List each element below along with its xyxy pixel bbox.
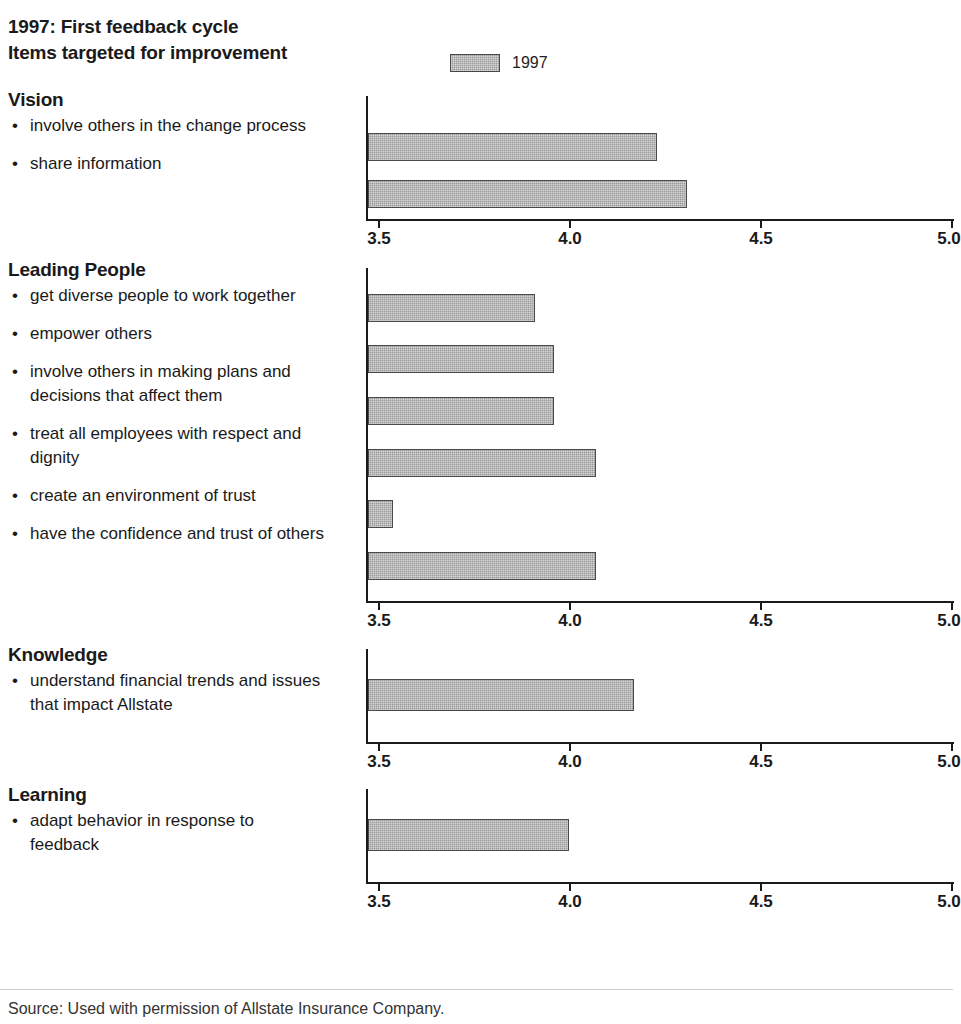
section-leading-people: Leading People • get diverse people to w… [0, 258, 953, 643]
list-item-label: involve others in making plans and decis… [30, 362, 291, 405]
list-item: • have the confidence and trust of other… [8, 522, 338, 546]
bullet-icon: • [12, 360, 18, 384]
plot-learning: 3.5 4.0 4.5 5.0 [366, 783, 953, 923]
x-tick-label-3-5: 3.5 [367, 229, 391, 249]
x-tick-label-3-5: 3.5 [367, 752, 391, 772]
x-axis-line [366, 882, 954, 884]
x-tick-3-5 [378, 882, 380, 891]
footer-divider [0, 989, 953, 990]
x-tick-label-4-0: 4.0 [558, 229, 582, 249]
list-item-label: share information [30, 154, 161, 173]
bar-get-diverse-people [368, 294, 535, 322]
plot-knowledge: 3.5 4.0 4.5 5.0 [366, 643, 953, 783]
x-tick-label-4-5: 4.5 [749, 611, 773, 631]
x-tick-label-5-0: 5.0 [937, 229, 961, 249]
bar-share-information [368, 180, 687, 208]
x-tick-label-5-0: 5.0 [937, 892, 961, 912]
x-axis-line [366, 742, 954, 744]
list-item: • treat all employees with respect and d… [8, 422, 338, 470]
x-tick-3-5 [378, 601, 380, 610]
x-tick-3-5 [378, 742, 380, 751]
group-title-knowledge: Knowledge [8, 643, 366, 667]
group-title-vision: Vision [8, 88, 366, 112]
x-tick-label-4-5: 4.5 [749, 892, 773, 912]
title-line-1: 1997: First feedback cycle [8, 14, 287, 40]
x-tick-4-0 [569, 219, 571, 228]
section-learning: Learning • adapt behavior in response to… [0, 783, 953, 923]
page-title: 1997: First feedback cycle Items targete… [8, 14, 287, 66]
bar-empower-others [368, 345, 554, 373]
bullet-icon: • [12, 322, 18, 346]
plot-vision: 3.5 4.0 4.5 5.0 [366, 88, 953, 258]
x-tick-3-5 [378, 219, 380, 228]
x-tick-label-5-0: 5.0 [937, 611, 961, 631]
list-item-label: understand financial trends and issues t… [30, 671, 320, 714]
x-tick-5-0 [951, 882, 953, 891]
bullet-icon: • [12, 422, 18, 446]
group-title-learning: Learning [8, 783, 366, 807]
bullet-icon: • [12, 809, 18, 833]
section-vision: Vision • involve others in the change pr… [0, 88, 953, 258]
x-tick-label-4-5: 4.5 [749, 752, 773, 772]
list-item: • get diverse people to work together [8, 284, 298, 308]
x-tick-4-5 [760, 601, 762, 610]
x-tick-4-0 [569, 882, 571, 891]
bar-involve-others-change [368, 133, 657, 161]
source-note: Source: Used with permission of Allstate… [8, 1000, 444, 1018]
labels-leading-people: Leading People • get diverse people to w… [0, 258, 366, 546]
x-axis-line [366, 219, 954, 221]
bullet-icon: • [12, 484, 18, 508]
x-tick-5-0 [951, 742, 953, 751]
bullet-icon: • [12, 152, 18, 176]
list-item-label: involve others in the change process [30, 116, 306, 135]
bullet-icon: • [12, 284, 18, 308]
x-tick-5-0 [951, 219, 953, 228]
bar-treat-employees-respect [368, 449, 596, 477]
bullet-icon: • [12, 522, 18, 546]
bullet-icon: • [12, 114, 18, 138]
x-tick-4-0 [569, 601, 571, 610]
list-item-label: treat all employees with respect and dig… [30, 424, 301, 467]
x-tick-label-5-0: 5.0 [937, 752, 961, 772]
bar-environment-of-trust [368, 500, 393, 528]
group-title-leading-people: Leading People [8, 258, 366, 282]
bullet-icon: • [12, 669, 18, 693]
x-axis-line [366, 601, 954, 603]
x-tick-label-3-5: 3.5 [367, 892, 391, 912]
bar-confidence-and-trust [368, 552, 596, 580]
list-item: • create an environment of trust [8, 484, 366, 508]
x-tick-label-4-0: 4.0 [558, 752, 582, 772]
list-item: • understand financial trends and issues… [8, 669, 328, 717]
labels-learning: Learning • adapt behavior in response to… [0, 783, 366, 857]
labels-knowledge: Knowledge • understand financial trends … [0, 643, 366, 717]
x-tick-label-4-5: 4.5 [749, 229, 773, 249]
list-item-label: adapt behavior in response to feedback [30, 811, 254, 854]
bar-understand-financial-trends [368, 679, 634, 711]
list-item-label: empower others [30, 324, 152, 343]
list-item-label: get diverse people to work together [30, 286, 296, 305]
section-knowledge: Knowledge • understand financial trends … [0, 643, 953, 783]
x-tick-label-4-0: 4.0 [558, 892, 582, 912]
x-tick-label-3-5: 3.5 [367, 611, 391, 631]
list-item: • empower others [8, 322, 366, 346]
chart-header: 1997: First feedback cycle Items targete… [0, 10, 953, 88]
legend-label-1997: 1997 [512, 54, 548, 72]
x-tick-label-4-0: 4.0 [558, 611, 582, 631]
list-item: • share information [8, 152, 366, 176]
bar-adapt-behavior-feedback [368, 819, 569, 851]
x-tick-4-5 [760, 219, 762, 228]
labels-vision: Vision • involve others in the change pr… [0, 88, 366, 176]
legend-swatch-1997 [450, 54, 500, 72]
list-item: • adapt behavior in response to feedback [8, 809, 308, 857]
list-item-label: create an environment of trust [30, 486, 256, 505]
bar-involve-others-plans [368, 397, 554, 425]
x-tick-5-0 [951, 601, 953, 610]
list-item-label: have the confidence and trust of others [30, 524, 324, 543]
x-tick-4-5 [760, 882, 762, 891]
x-tick-4-5 [760, 742, 762, 751]
chart-legend: 1997 [450, 54, 548, 72]
x-tick-4-0 [569, 742, 571, 751]
list-item: • involve others in the change process [8, 114, 308, 138]
plot-leading-people: 3.5 4.0 4.5 5.0 [366, 258, 953, 643]
